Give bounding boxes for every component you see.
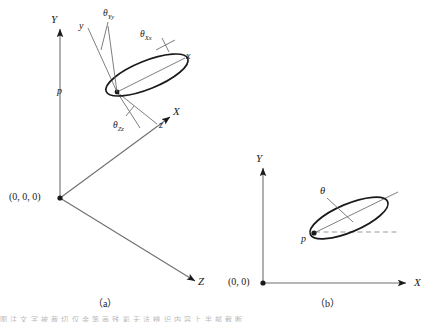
axis-Z-line [60,198,195,281]
panel-b-axes [260,168,406,286]
caption-panel-a: （a） [93,299,117,309]
axis-label-Z: Z [198,276,204,287]
axis-label-local-x: x [186,51,190,61]
origin-label-3d: (0, 0, 0) [9,192,41,202]
point-label-p-2d: p [301,234,306,244]
axis-label-X: X [173,106,180,117]
theta-Xx-tick [162,38,169,52]
axis-label-Y2: Y [256,153,262,164]
theta-leader-2d [327,198,353,222]
theta-Yy-leader [101,22,108,50]
axis-label-Y: Y [51,14,57,25]
point-label-p-3d: p [57,86,62,96]
panel-b-ellipse-group [305,189,398,248]
axis-local-x-line [117,58,185,92]
origin-dot-3d [57,195,62,200]
theta-Yy-subscript: Yy [108,13,115,20]
axis-label-local-z: z [159,120,163,130]
caption-panel-b: （b） [315,299,340,309]
clipped-footer-text: 图 注 文 字 被 裁 切 仅 余 笔 画 残 影 无 法 辨 识 内 容 上 … [0,314,432,322]
theta-Zz-subscript: Zz [118,125,124,132]
theta-Xx-subscript: Xx [145,34,152,41]
axis-label-local-y: y [79,21,83,31]
figure-root: Y X Z y x z p θYy θXx θZz (0, 0, 0) Y X … [0,0,432,322]
point-p-2d [311,230,316,235]
axis-local-z-line [117,92,157,124]
theta-Zz-label: θZz [113,121,124,132]
theta-Xx-label: θXx [140,30,152,41]
origin-label-2d: (0, 0) [228,277,250,287]
origin-dot-2d [260,280,265,285]
figure-canvas [0,0,432,322]
theta-Yy-label: θYy [103,9,114,20]
panel-a-global-axes [57,29,195,281]
axis-label-X2: X [414,277,421,288]
theta-label-2d: θ [320,186,325,197]
